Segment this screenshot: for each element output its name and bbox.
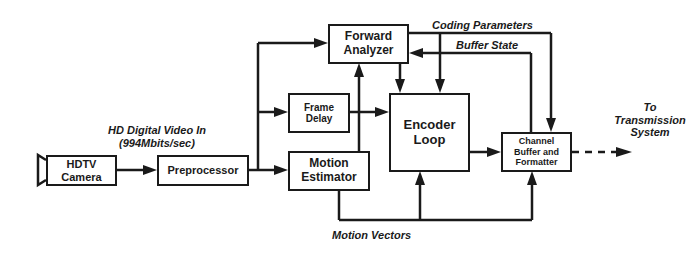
camera-label-line1: HDTV — [67, 158, 97, 171]
input-label-line2: (994Mbits/sec) — [92, 137, 222, 150]
preprocessor-label: Preprocessor — [168, 164, 239, 177]
output-label-line3: System — [605, 126, 695, 139]
input-label: HD Digital Video In (994Mbits/sec) — [92, 124, 222, 149]
forward-analyzer-block: Forward Analyzer — [328, 24, 409, 64]
frame-delay-block: Frame Delay — [288, 93, 350, 133]
output-label: To Transmission System — [605, 101, 695, 139]
channel-buffer-label-line2: Buffer and — [514, 147, 559, 157]
motion-estimator-label-line2: Estimator — [301, 171, 356, 185]
frame-delay-label-line1: Frame — [304, 102, 334, 114]
encoder-loop-label-line1: Encoder — [403, 118, 455, 133]
preprocessor-block: Preprocessor — [157, 155, 249, 186]
output-label-line1: To — [605, 101, 695, 114]
forward-analyzer-label-line1: Forward — [345, 30, 392, 44]
buffer-state-label: Buffer State — [456, 39, 518, 52]
channel-buffer-label-line3: Formatter — [515, 157, 557, 167]
channel-buffer-label-line1: Channel — [519, 136, 555, 146]
encoder-loop-label-line2: Loop — [414, 133, 446, 148]
forward-analyzer-label-line2: Analyzer — [343, 44, 393, 58]
motion-estimator-label-line1: Motion — [309, 157, 348, 171]
hdtv-camera-block: HDTV Camera — [46, 155, 117, 186]
motion-estimator-block: Motion Estimator — [288, 151, 370, 191]
input-label-line1: HD Digital Video In — [92, 124, 222, 137]
frame-delay-label-line2: Delay — [306, 113, 333, 125]
motion-vectors-label: Motion Vectors — [332, 229, 411, 242]
camera-label-line2: Camera — [61, 171, 101, 184]
encoder-loop-block: Encoder Loop — [389, 93, 470, 172]
channel-buffer-block: Channel Buffer and Formatter — [501, 132, 572, 172]
coding-parameters-label: Coding Parameters — [432, 19, 533, 32]
hdtv-encoder-block-diagram: HDTV Camera Preprocessor Forward Analyze… — [0, 0, 697, 254]
output-label-line2: Transmission — [605, 114, 695, 127]
